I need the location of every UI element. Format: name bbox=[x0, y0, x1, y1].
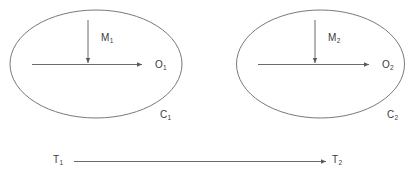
label-o2-subscript: 2 bbox=[390, 64, 394, 71]
label-t1-subscript: 1 bbox=[59, 159, 63, 166]
label-t2: T2 bbox=[332, 155, 342, 165]
label-o2: O2 bbox=[382, 60, 393, 70]
label-m1: M1 bbox=[101, 33, 113, 43]
label-m2: M2 bbox=[328, 33, 340, 43]
label-m1-text: M bbox=[101, 32, 109, 43]
label-o2-text: O bbox=[382, 59, 390, 70]
label-m2-subscript: 2 bbox=[337, 37, 341, 44]
diagram-canvas: M1 O1 C1 M2 O2 C2 T1 T2 bbox=[0, 0, 416, 181]
label-c1: C1 bbox=[160, 110, 171, 120]
label-o1-subscript: 1 bbox=[163, 64, 167, 71]
label-m1-subscript: 1 bbox=[110, 37, 114, 44]
label-c1-text: C bbox=[160, 109, 167, 120]
label-o1: O1 bbox=[155, 60, 166, 70]
label-c1-subscript: 1 bbox=[168, 114, 172, 121]
label-t1: T1 bbox=[53, 155, 63, 165]
container-ellipse-c2 bbox=[237, 10, 405, 118]
label-m2-text: M bbox=[328, 32, 336, 43]
label-c2-subscript: 2 bbox=[395, 114, 399, 121]
label-o1-text: O bbox=[155, 59, 163, 70]
label-c2: C2 bbox=[387, 110, 398, 120]
diagram-vector-layer bbox=[0, 0, 416, 181]
label-t2-subscript: 2 bbox=[338, 159, 342, 166]
label-c2-text: C bbox=[387, 109, 394, 120]
